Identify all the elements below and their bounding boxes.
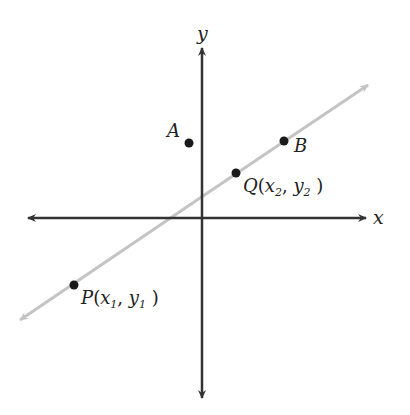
- point-p: [70, 281, 79, 290]
- point-p-label: P(x1, y1 ): [80, 287, 159, 311]
- svg-text:P(x1, y1 ): P(x1, y1 ): [80, 287, 159, 311]
- y-axis-label: y: [196, 22, 208, 44]
- point-q-label: Q(x2, y2 ): [243, 175, 323, 199]
- point-a-label: A: [165, 120, 180, 141]
- point-a: [185, 139, 194, 148]
- point-q: [232, 169, 241, 178]
- coordinate-diagram: y x A B Q(x2, y2 ) P(x1, y1 ): [0, 0, 410, 415]
- svg-text:Q(x2, y2 ): Q(x2, y2 ): [243, 175, 323, 199]
- point-b-label: B: [293, 135, 307, 156]
- point-b: [280, 137, 289, 146]
- x-axis-label: x: [373, 206, 384, 228]
- diagram-canvas: y x A B Q(x2, y2 ) P(x1, y1 ): [0, 0, 410, 415]
